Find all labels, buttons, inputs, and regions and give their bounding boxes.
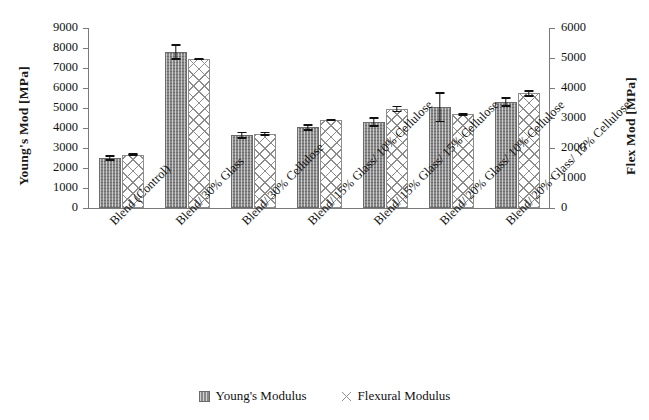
right-tick bbox=[550, 58, 555, 59]
right-tick bbox=[550, 148, 555, 149]
right-tick bbox=[550, 208, 555, 209]
legend-label-flexural-modulus: Flexural Modulus bbox=[358, 388, 451, 404]
left-tick-label: 3000 bbox=[34, 141, 78, 154]
legend-label-youngs-modulus: Young's Modulus bbox=[216, 388, 307, 404]
chart-legend: Young's Modulus Flexural Modulus bbox=[0, 388, 649, 404]
left-axis-title: Young's Mod [MPa] bbox=[16, 46, 32, 206]
legend-item-youngs-modulus: Young's Modulus bbox=[199, 388, 307, 404]
left-tick bbox=[83, 208, 88, 209]
left-tick-label: 5000 bbox=[34, 101, 78, 114]
left-tick-label: 2000 bbox=[34, 161, 78, 174]
right-tick-label: 6000 bbox=[561, 21, 586, 34]
right-tick-label: 5000 bbox=[561, 51, 586, 64]
left-tick-label: 6000 bbox=[34, 81, 78, 94]
left-tick-label: 8000 bbox=[34, 41, 78, 54]
right-tick-label: 4000 bbox=[561, 81, 586, 94]
flex-crosshatch-swatch bbox=[341, 391, 352, 402]
left-tick-label: 4000 bbox=[34, 121, 78, 134]
error-bar-youngs-modulus bbox=[500, 97, 512, 107]
right-axis-title: Flex Mod [MPa] bbox=[623, 46, 639, 206]
right-tick bbox=[550, 28, 555, 29]
left-tick-label: 0 bbox=[34, 201, 78, 214]
right-tick-label: 0 bbox=[561, 201, 567, 214]
error-bar-flexural-modulus bbox=[523, 90, 535, 97]
right-tick-label: 3000 bbox=[561, 111, 586, 124]
legend-item-flexural-modulus: Flexural Modulus bbox=[341, 388, 451, 404]
chart-figure: Young's Mod [MPa] Flex Mod [MPa] 0100020… bbox=[0, 0, 649, 420]
top-faint-artifact bbox=[0, 0, 649, 8]
left-tick-label: 9000 bbox=[34, 21, 78, 34]
left-tick-label: 1000 bbox=[34, 181, 78, 194]
young-hatch-swatch bbox=[199, 391, 210, 402]
left-tick-label: 7000 bbox=[34, 61, 78, 74]
right-tick bbox=[550, 88, 555, 89]
